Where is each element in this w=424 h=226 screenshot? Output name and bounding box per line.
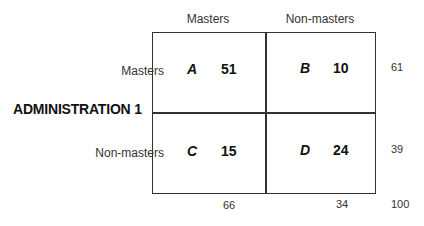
column-total-masters: 66 [223, 199, 235, 211]
grand-total: 100 [391, 198, 409, 210]
row-total-masters: 61 [391, 61, 403, 73]
cell-b-value: 10 [333, 60, 349, 76]
row-header-nonmasters: Non-masters [24, 146, 164, 160]
cell-a-letter: A [187, 61, 197, 77]
cell-b-letter: B [300, 60, 310, 76]
horizontal-divider [152, 112, 376, 114]
column-header-nonmasters: Non-masters [264, 12, 376, 26]
column-total-nonmasters: 34 [336, 198, 348, 210]
row-header-masters: Masters [24, 64, 164, 78]
cell-d-letter: D [300, 142, 310, 158]
row-axis-title: ADMINISTRATION 1 [13, 101, 142, 117]
cell-c-letter: C [187, 143, 197, 159]
cell-c-value: 15 [221, 143, 237, 159]
cell-d-value: 24 [333, 142, 349, 158]
row-total-nonmasters: 39 [391, 143, 403, 155]
cell-a-value: 51 [221, 61, 237, 77]
column-header-masters: Masters [152, 12, 264, 26]
